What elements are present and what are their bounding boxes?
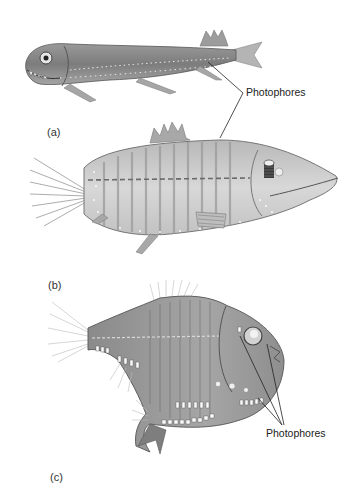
fish-c-hatchetfish [48,280,284,454]
photophores-label-bottom: Photophores [266,428,326,439]
photophores-label-top: Photophores [246,87,306,98]
panel-label-b: (b) [48,280,61,291]
figure-canvas: Photophores Photophores (a) (b) (c) [0,0,359,501]
panel-label-a: (a) [47,127,60,138]
fish-a-dragonfish [26,30,262,102]
leader-lines-top [208,62,243,138]
panel-label-c: (c) [50,472,63,483]
fish-b [30,122,338,254]
fish-illustrations [0,0,359,501]
